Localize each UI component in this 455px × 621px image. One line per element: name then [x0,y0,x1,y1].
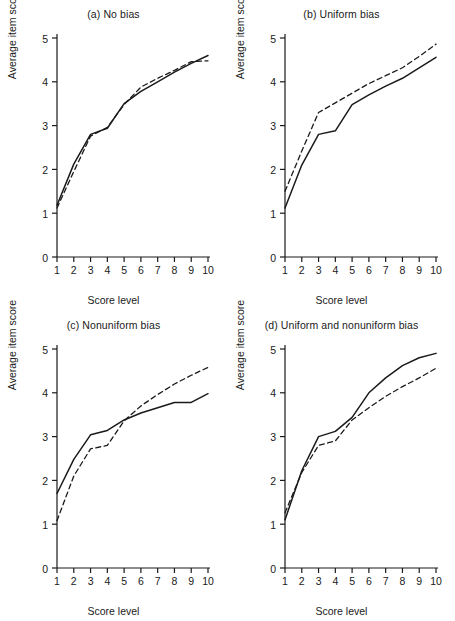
panel-d-plot-area: Average item score 01234512345678910 Sco… [228,335,455,615]
panel-c-nonuniform-bias: (c) Nonuniform bias Average item score 0… [0,311,227,621]
svg-text:3: 3 [270,431,276,443]
svg-text:6: 6 [138,575,144,587]
svg-text:1: 1 [282,575,288,587]
panel-b-xlabel: Score level [228,294,455,306]
svg-text:1: 1 [282,264,288,276]
svg-text:4: 4 [270,76,276,88]
panel-b-svg: 01234512345678910 [228,24,455,304]
panel-b-uniform-bias: (b) Uniform bias Average item score 0123… [228,0,455,310]
svg-text:3: 3 [316,264,322,276]
svg-text:6: 6 [366,264,372,276]
svg-text:0: 0 [270,252,276,264]
svg-text:3: 3 [42,120,48,132]
svg-text:10: 10 [430,264,442,276]
svg-text:2: 2 [299,264,305,276]
svg-text:10: 10 [202,264,214,276]
svg-text:9: 9 [188,264,194,276]
svg-text:2: 2 [42,164,48,176]
svg-text:2: 2 [71,264,77,276]
panel-d-title: (d) Uniform and nonuniform bias [228,319,455,331]
panel-c-svg: 01234512345678910 [0,335,227,615]
svg-text:7: 7 [155,264,161,276]
svg-text:1: 1 [270,208,276,220]
panel-a-svg: 01234512345678910 [0,24,227,304]
svg-text:1: 1 [42,208,48,220]
svg-text:4: 4 [42,387,48,399]
svg-text:8: 8 [400,264,406,276]
svg-text:1: 1 [54,264,60,276]
svg-text:5: 5 [121,575,127,587]
panel-b-title: (b) Uniform bias [228,8,455,20]
series-dashed [57,61,208,208]
panel-c-xlabel: Score level [0,605,227,617]
svg-text:7: 7 [383,264,389,276]
series-solid [57,56,208,206]
svg-text:5: 5 [42,344,48,356]
svg-text:9: 9 [416,575,422,587]
series-dashed [57,367,208,520]
svg-text:1: 1 [42,519,48,531]
svg-text:2: 2 [299,575,305,587]
svg-text:10: 10 [430,575,442,587]
svg-text:4: 4 [42,76,48,88]
svg-text:4: 4 [104,264,110,276]
series-dashed [285,44,436,191]
svg-text:5: 5 [121,264,127,276]
panel-a-plot-area: Average item score 01234512345678910 Sco… [0,24,227,304]
svg-text:4: 4 [332,575,338,587]
panel-a-title: (a) No bias [0,8,227,20]
svg-text:0: 0 [42,252,48,264]
svg-text:10: 10 [202,575,214,587]
svg-text:4: 4 [332,264,338,276]
panel-a-xlabel: Score level [0,294,227,306]
svg-text:0: 0 [42,563,48,575]
panel-b-plot-area: Average item score 01234512345678910 Sco… [228,24,455,304]
series-solid [57,394,208,494]
series-solid [285,57,436,208]
svg-text:8: 8 [172,575,178,587]
svg-text:2: 2 [270,475,276,487]
svg-text:7: 7 [383,575,389,587]
svg-text:2: 2 [42,475,48,487]
svg-text:2: 2 [71,575,77,587]
svg-text:8: 8 [400,575,406,587]
panel-a-no-bias: (a) No bias Average item score 012345123… [0,0,227,310]
svg-text:9: 9 [416,264,422,276]
svg-text:6: 6 [366,575,372,587]
svg-text:5: 5 [349,264,355,276]
panel-c-plot-area: Average item score 01234512345678910 Sco… [0,335,227,615]
svg-text:3: 3 [316,575,322,587]
svg-text:5: 5 [349,575,355,587]
panel-c-title: (c) Nonuniform bias [0,319,227,331]
svg-text:1: 1 [54,575,60,587]
svg-text:0: 0 [270,563,276,575]
series-solid [285,353,436,519]
svg-text:3: 3 [42,431,48,443]
svg-text:1: 1 [270,519,276,531]
svg-text:3: 3 [270,120,276,132]
svg-text:4: 4 [270,387,276,399]
svg-text:7: 7 [155,575,161,587]
svg-text:9: 9 [188,575,194,587]
svg-text:2: 2 [270,164,276,176]
svg-text:3: 3 [88,575,94,587]
figure-multi-panel-line-charts: (a) No bias Average item score 012345123… [0,0,455,621]
svg-text:8: 8 [172,264,178,276]
svg-text:5: 5 [270,344,276,356]
panel-d-xlabel: Score level [228,605,455,617]
svg-text:3: 3 [88,264,94,276]
series-dashed [285,368,436,513]
svg-text:5: 5 [270,33,276,45]
svg-text:6: 6 [138,264,144,276]
svg-text:5: 5 [42,33,48,45]
svg-text:4: 4 [104,575,110,587]
panel-d-uniform-and-nonuniform-bias: (d) Uniform and nonuniform bias Average … [228,311,455,621]
panel-d-svg: 01234512345678910 [228,335,455,615]
